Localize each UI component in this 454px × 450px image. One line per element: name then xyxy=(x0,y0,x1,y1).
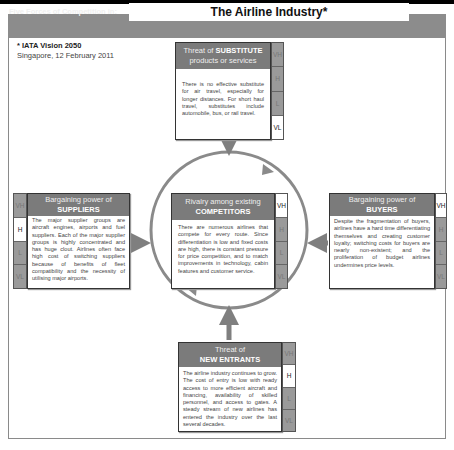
substitutes-title: Threat of SUBSTITUTE products or service… xyxy=(176,43,270,69)
rating-vl: VL xyxy=(436,265,446,288)
rating-vl: VL xyxy=(276,265,287,288)
suppliers-title: Bargaining power of SUPPLIERS xyxy=(28,194,129,216)
suppliers-rating-scale: VH H L VL xyxy=(13,193,27,289)
rating-l: L xyxy=(283,388,295,410)
rivalry-rating-scale: VH H L VL xyxy=(275,193,288,289)
substitutes-text: There is no effective substitute for air… xyxy=(176,69,270,121)
substitutes-box: Threat of SUBSTITUTE products or service… xyxy=(175,42,271,140)
new-entrants-text: The airline industry continues to grow. … xyxy=(179,367,281,431)
buyers-box: Bargaining power of BUYERS Despite the f… xyxy=(329,193,435,289)
rating-vh: VH xyxy=(272,43,283,67)
substitutes-rating-scale: VH H L VL xyxy=(271,42,284,140)
rating-h: H xyxy=(276,218,287,242)
rating-h: H xyxy=(272,67,283,91)
rating-h: H xyxy=(436,218,446,242)
suppliers-text: The major supplier groups are aircraft e… xyxy=(28,216,129,284)
rating-vl: VL xyxy=(283,410,295,431)
rating-vh-selected: VH xyxy=(436,194,446,218)
rivalry-box: Rivalry among existing COMPETITORS There… xyxy=(171,193,275,289)
rating-vl-selected: VL xyxy=(272,116,283,139)
new-entrants-rating-scale: VH H L VL xyxy=(282,342,296,432)
rating-l: L xyxy=(276,242,287,266)
buyers-title: Bargaining power of BUYERS xyxy=(330,194,434,216)
suppliers-box: Bargaining power of SUPPLIERS The major … xyxy=(27,193,130,289)
rating-vh-selected: VH xyxy=(276,194,287,218)
rating-h-selected: H xyxy=(14,218,26,242)
buyers-rating-scale: VH H L VL xyxy=(435,193,447,289)
rating-h-selected: H xyxy=(283,365,295,387)
rating-vh: VH xyxy=(14,194,26,218)
rivalry-title: Rivalry among existing COMPETITORS xyxy=(172,194,274,220)
new-entrants-box: Threat of NEW ENTRANTS The airline indus… xyxy=(178,342,282,432)
new-entrants-title: Threat of NEW ENTRANTS xyxy=(179,343,281,367)
rating-vl: VL xyxy=(14,265,26,288)
rivalry-text: There are numerous airlines that compete… xyxy=(172,220,274,279)
rating-l: L xyxy=(436,242,446,266)
rating-l: L xyxy=(14,242,26,266)
rating-l: L xyxy=(272,92,283,116)
buyers-text: Despite the fragmentation of buyers, air… xyxy=(330,216,434,271)
rating-vh: VH xyxy=(283,343,295,365)
